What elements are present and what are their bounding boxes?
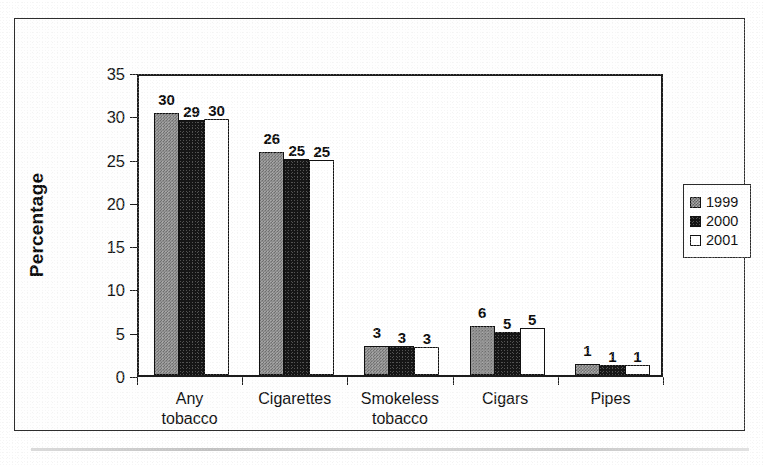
scan-smudge — [31, 448, 749, 451]
bar-2001-smokeless-tobacco[interactable]: 3 — [414, 347, 439, 375]
y-axis-tick-label: 35 — [85, 65, 125, 84]
bar-group-bars: 333 — [349, 76, 454, 375]
x-axis-category-line: tobacco — [137, 409, 242, 429]
bar-2001-pipes[interactable]: 1 — [625, 365, 650, 375]
bar-group: 262525 — [244, 76, 349, 375]
figure-frame: Percentage 05101520253035 AnytobaccoCiga… — [14, 18, 745, 431]
y-axis-tick-label: 5 — [85, 324, 125, 343]
x-axis-tick-mark — [347, 377, 348, 385]
y-axis-tick-label: 25 — [85, 151, 125, 170]
bar-1999-smokeless-tobacco[interactable]: 3 — [364, 346, 389, 375]
bar-value-label: 30 — [158, 91, 175, 108]
x-axis-tick-mark — [663, 377, 664, 385]
bar-value-label: 1 — [583, 342, 591, 359]
bar-value-label: 25 — [313, 143, 330, 160]
legend-item[interactable]: 1999 — [690, 194, 745, 210]
bar-2001-cigars[interactable]: 5 — [520, 328, 545, 375]
bar-1999-pipes[interactable]: 1 — [575, 364, 600, 375]
bar-1999-cigars[interactable]: 6 — [470, 326, 495, 375]
legend-item[interactable]: 2000 — [690, 213, 745, 229]
y-axis-tick-mark — [130, 334, 137, 335]
x-axis-category-line: tobacco — [347, 409, 452, 429]
bar-2000-smokeless-tobacco[interactable]: 3 — [389, 346, 414, 375]
bar-value-label: 26 — [263, 130, 280, 147]
legend-label-2001: 2001 — [706, 232, 738, 248]
y-axis-tick-label: 20 — [85, 194, 125, 213]
y-axis-tick-mark — [130, 204, 137, 205]
bar-value-label: 6 — [478, 304, 486, 321]
bar-value-label: 5 — [528, 311, 536, 328]
x-axis-tick-mark — [558, 377, 559, 385]
y-axis-tick-label: 15 — [85, 238, 125, 257]
bar-group-bars: 111 — [560, 76, 665, 375]
bar-value-label: 1 — [608, 348, 616, 365]
legend-label-2000: 2000 — [706, 213, 738, 229]
bar-2000-any-tobacco[interactable]: 29 — [179, 120, 204, 375]
x-axis-tick-mark — [453, 377, 454, 385]
bar-group-bars: 262525 — [244, 76, 349, 375]
legend-item[interactable]: 2001 — [690, 232, 745, 248]
bar-value-label: 3 — [398, 329, 406, 346]
x-axis-tick-mark — [242, 377, 243, 385]
x-axis-category-line: Any — [137, 389, 242, 409]
bar-value-label: 3 — [373, 324, 381, 341]
bar-group-bars: 655 — [455, 76, 560, 375]
bar-1999-cigarettes[interactable]: 26 — [259, 152, 284, 375]
bar-2000-cigarettes[interactable]: 25 — [284, 159, 309, 375]
bar-1999-any-tobacco[interactable]: 30 — [154, 113, 179, 375]
bar-chart: Percentage 05101520253035 AnytobaccoCiga… — [15, 19, 744, 430]
bar-value-label: 30 — [208, 102, 225, 119]
legend-swatch-2001-icon — [690, 235, 701, 246]
y-axis-tick-mark — [130, 290, 137, 291]
y-axis-title: Percentage — [26, 172, 48, 276]
y-axis-tick-mark — [130, 74, 137, 75]
legend: 1999 2000 2001 — [683, 184, 751, 258]
x-axis-category-line: Pipes — [558, 389, 663, 409]
bar-group-bars: 302930 — [139, 76, 244, 375]
bar-2001-cigarettes[interactable]: 25 — [309, 160, 334, 375]
x-axis-tick-mark — [137, 377, 138, 385]
y-axis-tick-mark — [130, 161, 137, 162]
bar-value-label: 1 — [633, 348, 641, 365]
y-axis-tick-mark — [130, 117, 137, 118]
bar-2000-cigars[interactable]: 5 — [495, 332, 520, 375]
bar-group: 655 — [455, 76, 560, 375]
y-axis-tick-mark — [130, 247, 137, 248]
bar-group: 302930 — [139, 76, 244, 375]
x-axis-category-line: Cigars — [453, 389, 558, 409]
y-axis-tick-label: 30 — [85, 108, 125, 127]
x-axis-category-label: Smokelesstobacco — [347, 389, 452, 429]
x-axis-category-label: Cigars — [453, 389, 558, 409]
bar-value-label: 29 — [183, 103, 200, 120]
bar-2000-pipes[interactable]: 1 — [600, 365, 625, 375]
y-axis-tick-label: 0 — [85, 368, 125, 387]
x-axis-category-label: Pipes — [558, 389, 663, 409]
bar-group: 333 — [349, 76, 454, 375]
plot-area: 302930262525333655111 — [137, 74, 663, 377]
x-axis-category-line: Cigarettes — [242, 389, 347, 409]
x-axis-category-line: Smokeless — [347, 389, 452, 409]
x-axis-category-label: Anytobacco — [137, 389, 242, 429]
bar-value-label: 25 — [288, 142, 305, 159]
bar-2001-any-tobacco[interactable]: 30 — [204, 119, 229, 375]
y-axis-tick-mark — [130, 377, 137, 378]
y-axis-tick-label: 10 — [85, 281, 125, 300]
bar-value-label: 3 — [423, 330, 431, 347]
bar-value-label: 5 — [503, 315, 511, 332]
legend-swatch-2000-icon — [690, 216, 701, 227]
legend-swatch-1999-icon — [690, 197, 701, 208]
x-axis-category-label: Cigarettes — [242, 389, 347, 409]
bar-group: 111 — [560, 76, 665, 375]
legend-label-1999: 1999 — [706, 194, 738, 210]
